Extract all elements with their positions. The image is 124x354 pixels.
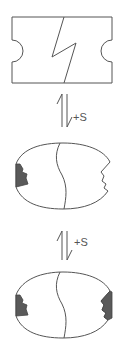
plus-s-label-2: +S xyxy=(74,236,88,248)
open-state-one-bound xyxy=(16,143,110,209)
up-arrow xyxy=(57,231,62,260)
plus-s-label-1: +S xyxy=(73,111,87,123)
bound-ligand-left xyxy=(16,295,28,316)
down-arrow xyxy=(67,231,72,260)
notched-rectangle-outline xyxy=(12,17,112,83)
bound-ligand-right xyxy=(101,291,112,320)
equilibrium-arrows-2: +S xyxy=(57,231,88,260)
wavy-divider xyxy=(56,272,66,338)
open-state-two-bound xyxy=(16,272,112,338)
down-arrow xyxy=(67,94,72,127)
bound-ligand-left xyxy=(16,164,28,187)
wavy-divider xyxy=(56,143,66,209)
diagram-canvas: +S +S xyxy=(0,0,124,354)
equilibrium-arrows-1: +S xyxy=(57,94,87,127)
closed-state xyxy=(12,17,112,83)
up-arrow xyxy=(57,94,62,127)
zigzag-split-line xyxy=(52,17,76,83)
